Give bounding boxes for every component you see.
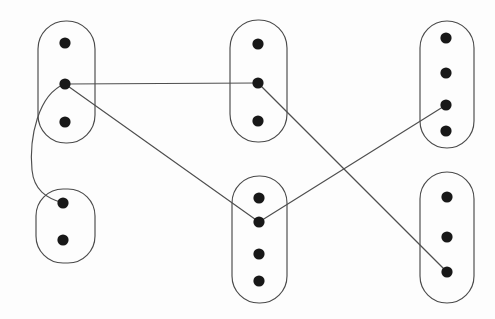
graph-edge-tl2-bl1 [31,84,65,203]
graph-vertex-br1 [441,191,452,202]
graph-vertex-bm2 [253,216,264,227]
graph-vertex-tm3 [252,115,263,126]
graph-vertex-tl3 [59,116,70,127]
graph-vertex-bm1 [253,192,264,203]
graph-vertex-bm3 [253,248,264,259]
diagram-canvas [0,0,495,319]
graph-edge-tm2-br3 [258,83,447,272]
graph-vertex-tl2 [59,78,70,89]
graph-vertex-br2 [441,231,452,242]
graph-vertex-tm2 [252,77,263,88]
graph-vertex-tr1 [440,32,451,43]
graph-vertex-tr3 [440,99,451,110]
graph-vertex-tr4 [440,125,451,136]
graph-edge-tl2-tm2 [65,83,258,84]
graph-vertex-bl2 [57,234,68,245]
graph-vertex-br3 [441,266,452,277]
graph-vertex-tl1 [59,37,70,48]
vertex-group [57,32,452,286]
graph-vertex-tm1 [252,38,263,49]
cluster-outline-group [36,20,474,303]
graph-vertex-tr2 [440,67,451,78]
graph-edge-bm2-tr3 [259,105,446,222]
clustered-graph-diagram [0,0,495,319]
graph-vertex-bl1 [57,197,68,208]
graph-vertex-bm4 [253,275,264,286]
